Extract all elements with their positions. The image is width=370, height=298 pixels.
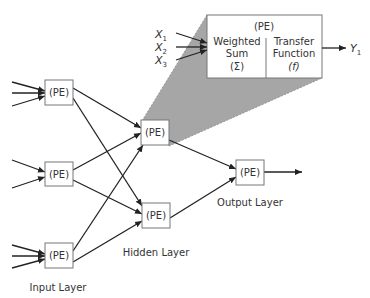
input-layer-label: Input Layer (30, 282, 88, 293)
hidden-layer-label: Hidden Layer (123, 247, 190, 258)
svg-text:(PE): (PE) (145, 127, 165, 138)
hidden-node-1: (PE) (141, 120, 169, 145)
input-arrows (12, 82, 45, 268)
sigma-symbol: (Σ) (230, 61, 244, 72)
y1-label: Y1 (350, 42, 361, 57)
pe-detail-box: (PE) Weighted Sum (Σ) Transfer Function … (207, 15, 322, 78)
output-layer-label: Output Layer (217, 197, 284, 208)
neural-network-diagram: (PE) Weighted Sum (Σ) Transfer Function … (0, 0, 370, 298)
input-node-1: (PE) (45, 80, 73, 105)
hidden-node-2: (PE) (142, 203, 170, 228)
weighted-sum-line2: Sum (226, 48, 248, 59)
input-node-2: (PE) (45, 162, 73, 186)
weighted-sum-line1: Weighted (213, 36, 260, 47)
svg-text:(PE): (PE) (146, 210, 166, 221)
transfer-function-line1: Transfer (273, 36, 315, 47)
svg-text:(PE): (PE) (49, 87, 69, 98)
svg-text:(PE): (PE) (49, 169, 69, 180)
detail-output: Y1 (322, 42, 361, 57)
transfer-function-line2: Function (273, 48, 316, 59)
input-node-3: (PE) (45, 243, 73, 268)
f-symbol: (f) (288, 61, 299, 72)
svg-text:(PE): (PE) (49, 250, 69, 261)
svg-text:(PE): (PE) (240, 167, 260, 178)
x3-label: X3 (154, 54, 167, 69)
output-node: (PE) (236, 160, 264, 185)
detail-title: (PE) (254, 21, 274, 32)
